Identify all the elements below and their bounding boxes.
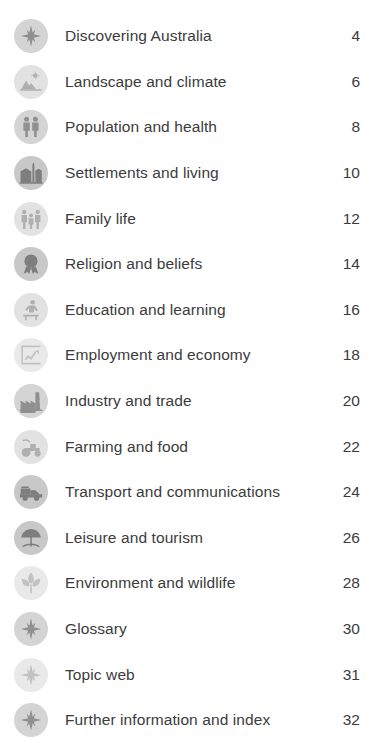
contents-row-label: Further information and index (65, 712, 270, 729)
contents-row-label: Landscape and climate (65, 73, 227, 90)
contents-row-page-number: 30 (343, 621, 360, 638)
contents-row[interactable]: Education and learning16 (0, 287, 384, 333)
contents-row[interactable]: Industry and trade20 (0, 378, 384, 424)
contents-row[interactable]: Discovering Australia4 (0, 14, 384, 60)
truck-icon (14, 475, 48, 509)
contents-row[interactable]: Further information and index32 (0, 698, 384, 741)
contents-row-page-number: 24 (343, 484, 360, 501)
compass-rose-icon (14, 612, 48, 646)
contents-row-label: Discovering Australia (65, 28, 212, 45)
contents-row[interactable]: Population and health8 (0, 105, 384, 151)
two-people-icon (14, 110, 48, 144)
contents-row-page-number: 28 (343, 575, 360, 592)
contents-row-page-number: 14 (343, 256, 360, 273)
contents-row[interactable]: Family life12 (0, 196, 384, 242)
contents-row-label: Transport and communications (65, 484, 280, 501)
contents-row-page-number: 8 (351, 119, 360, 136)
compass-rose-icon (14, 19, 48, 53)
contents-row-page-number: 4 (351, 28, 360, 45)
contents-row-label: Farming and food (65, 438, 188, 455)
factory-icon (14, 384, 48, 418)
contents-row-page-number: 18 (343, 347, 360, 364)
contents-row-page-number: 16 (343, 301, 360, 318)
contents-row[interactable]: Transport and communications24 (0, 470, 384, 516)
contents-row[interactable]: Environment and wildlife28 (0, 561, 384, 607)
plant-leaf-icon (14, 566, 48, 600)
contents-row-label: Employment and economy (65, 347, 251, 364)
contents-row-label: Population and health (65, 119, 217, 136)
contents-row-page-number: 22 (343, 438, 360, 455)
contents-row[interactable]: Glossary30 (0, 606, 384, 652)
contents-row[interactable]: Settlements and living10 (0, 150, 384, 196)
award-rosette-icon (14, 247, 48, 281)
contents-row[interactable]: Employment and economy18 (0, 333, 384, 379)
contents-row-label: Topic web (65, 666, 135, 683)
mountain-sun-icon (14, 65, 48, 99)
contents-row-page-number: 26 (343, 529, 360, 546)
contents-row-page-number: 31 (343, 666, 360, 683)
contents-row-label: Leisure and tourism (65, 529, 203, 546)
contents-row-label: Religion and beliefs (65, 256, 202, 273)
contents-row-label: Industry and trade (65, 393, 192, 410)
student-desk-icon (14, 293, 48, 327)
chart-clipboard-icon (14, 338, 48, 372)
contents-row[interactable]: Farming and food22 (0, 424, 384, 470)
contents-row-label: Education and learning (65, 301, 226, 318)
city-buildings-icon (14, 156, 48, 190)
contents-row[interactable]: Leisure and tourism26 (0, 515, 384, 561)
contents-row-label: Family life (65, 210, 136, 227)
contents-row-label: Settlements and living (65, 165, 219, 182)
beach-umbrella-icon (14, 521, 48, 555)
contents-row-page-number: 12 (343, 210, 360, 227)
contents-row[interactable]: Religion and beliefs14 (0, 242, 384, 288)
family-group-icon (14, 202, 48, 236)
contents-row-page-number: 6 (351, 73, 360, 90)
contents-row-page-number: 20 (343, 393, 360, 410)
tractor-icon (14, 430, 48, 464)
contents-row-label: Environment and wildlife (65, 575, 235, 592)
contents-row[interactable]: Landscape and climate6 (0, 59, 384, 105)
contents-row-page-number: 10 (343, 165, 360, 182)
contents-row-label: Glossary (65, 621, 127, 638)
contents-row[interactable]: Topic web31 (0, 652, 384, 698)
contents-row-page-number: 32 (343, 712, 360, 729)
compass-rose-icon (14, 658, 48, 692)
compass-rose-icon (14, 703, 48, 737)
